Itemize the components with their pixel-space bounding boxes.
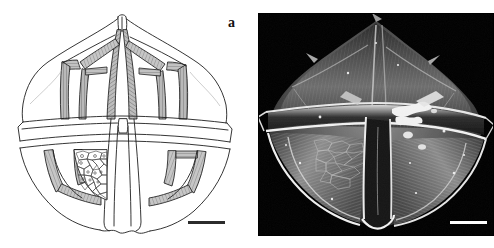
line-drawing-panel: a bbox=[0, 0, 250, 248]
plate-shading bbox=[30, 70, 220, 106]
scale-bar-sem bbox=[450, 221, 487, 224]
sulcus-flagellar-pore bbox=[118, 119, 128, 133]
suture-right-descending bbox=[178, 65, 188, 119]
suture-hypo-right-inner bbox=[164, 151, 176, 186]
cingulum-lower-edge-2 bbox=[20, 141, 230, 149]
cingulum-right-tip bbox=[227, 123, 232, 142]
suture-left-connector bbox=[86, 67, 107, 75]
scale-bar-line-drawing bbox=[188, 221, 225, 224]
suture-hypo-right-connector bbox=[176, 151, 197, 158]
figure-plate: a bbox=[0, 0, 494, 248]
suture-hypo-right-transverse bbox=[149, 185, 192, 206]
theca-sem-image bbox=[258, 13, 494, 236]
suture-left-inner-descending bbox=[79, 69, 89, 119]
theca-outline-group bbox=[18, 15, 232, 234]
sem-micrograph-panel bbox=[258, 13, 494, 236]
sem-grain-overlay bbox=[258, 13, 494, 236]
cingulum-left-tip bbox=[18, 122, 23, 141]
suture-right-inner-descending bbox=[156, 71, 166, 119]
panel-label: a bbox=[228, 16, 235, 30]
sulcus-right-wall bbox=[134, 119, 141, 231]
theca-line-drawing bbox=[0, 0, 250, 248]
